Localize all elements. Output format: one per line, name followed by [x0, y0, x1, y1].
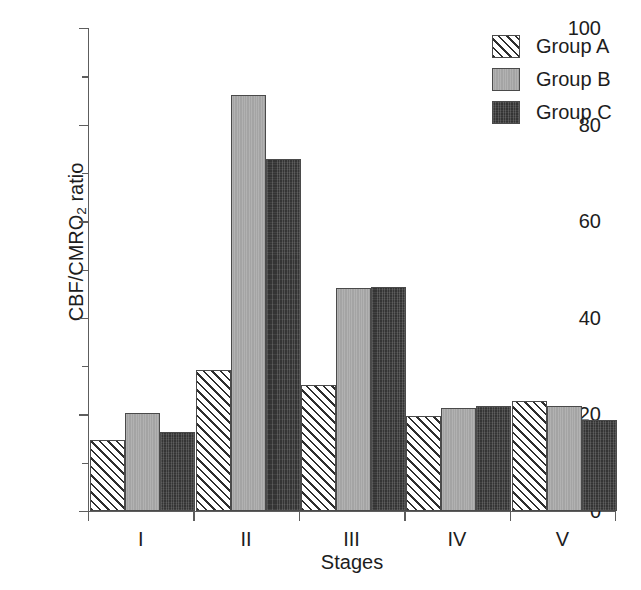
x-tick-mark: [88, 511, 89, 521]
x-tick-label: IV: [447, 528, 466, 551]
bar: [336, 288, 371, 511]
x-tick-label: V: [556, 528, 569, 551]
legend-swatch-group-a: [492, 35, 520, 58]
bar: [476, 406, 511, 511]
y-tick-major: [79, 414, 88, 415]
y-tick-label: 40: [579, 308, 601, 328]
legend-swatch-group-b: [492, 68, 520, 91]
y-tick-major: [79, 125, 88, 126]
bar: [231, 95, 266, 511]
y-axis-title: CBF/CMRO2 ratio: [65, 162, 89, 321]
x-tick-label: I: [138, 528, 144, 551]
chart-legend: Group A Group B Group C: [492, 30, 632, 129]
bar: [125, 413, 160, 511]
bar: [547, 406, 582, 511]
legend-item-group-a[interactable]: Group A: [492, 30, 632, 63]
x-axis-line: [88, 511, 616, 512]
x-axis-title: Stages: [88, 551, 616, 574]
bar: [512, 401, 547, 511]
y-tick-minor: [82, 173, 88, 174]
y-tick-minor: [82, 270, 88, 271]
bar: [371, 287, 406, 511]
x-tick-mark: [510, 511, 511, 521]
legend-label-group-c: Group C: [536, 101, 612, 124]
x-tick-mark: [404, 511, 405, 521]
y-axis-title-container: CBF/CMRO2 ratio: [0, 0, 46, 483]
x-tick-label: II: [241, 528, 252, 551]
bar: [196, 370, 231, 511]
y-tick-minor: [82, 366, 88, 367]
bar: [406, 416, 441, 511]
y-tick-major: [79, 221, 88, 222]
y-tick-minor: [82, 76, 88, 77]
y-tick-major: [79, 511, 88, 512]
legend-item-group-b[interactable]: Group B: [492, 63, 632, 96]
x-tick-mark: [193, 511, 194, 521]
y-tick-major: [79, 28, 88, 29]
legend-swatch-group-c: [492, 101, 520, 124]
x-tick-mark: [615, 511, 616, 521]
y-axis-title-after: ratio: [65, 162, 87, 206]
x-tick-label: III: [343, 528, 360, 551]
legend-label-group-b: Group B: [536, 68, 610, 91]
bar: [582, 420, 617, 511]
x-tick-mark: [299, 511, 300, 521]
y-axis-title-before: CBF/CMRO: [65, 214, 87, 321]
bar: [90, 440, 125, 511]
legend-item-group-c[interactable]: Group C: [492, 96, 632, 129]
legend-label-group-a: Group A: [536, 35, 609, 58]
chart-figure: CBF/CMRO2 ratio Stages 020406080100 IIII…: [0, 0, 641, 590]
bar: [266, 159, 301, 511]
y-tick-major: [79, 318, 88, 319]
y-tick-label: 60: [579, 211, 601, 231]
bar: [160, 432, 195, 511]
bar: [301, 385, 336, 511]
y-tick-minor: [82, 463, 88, 464]
bar: [441, 408, 476, 511]
